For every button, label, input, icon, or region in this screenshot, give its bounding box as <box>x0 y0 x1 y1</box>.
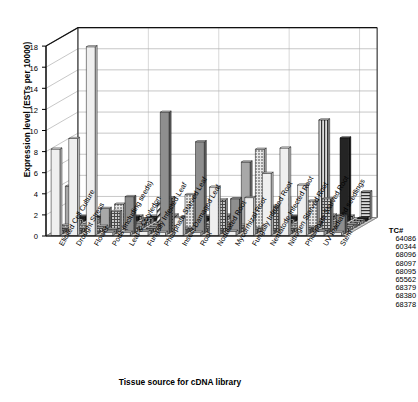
legend-item-68378: 68378 <box>352 301 416 309</box>
bar-64086-0 <box>51 148 62 236</box>
bar-68378-16 <box>361 191 372 220</box>
x-axis-title: Tissue source for cDNA library <box>70 377 290 387</box>
chart-figure: Expression level (ESTs per 10000) 18 16 … <box>0 0 418 402</box>
legend: TC# 640866034468096680976809565562683796… <box>376 226 416 309</box>
